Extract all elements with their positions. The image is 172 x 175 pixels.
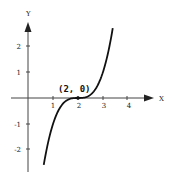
y-tick-label: 2 — [17, 43, 21, 51]
y-axis-arrow-icon — [25, 22, 32, 32]
x-tick-label: 3 — [102, 102, 106, 110]
x-axis-arrow-icon — [144, 95, 154, 102]
point-annotation: (2, 0) — [58, 84, 91, 94]
y-tick-label: 1 — [17, 69, 21, 77]
chart: Y X 1 2 3 4 2 1 -1 -2 (2, 0) — [0, 0, 172, 175]
x-axis-label: X — [159, 95, 164, 103]
inflection-point — [76, 96, 80, 100]
y-tick-label: -1 — [14, 121, 21, 129]
x-tick-label: 4 — [127, 102, 132, 110]
x-tick-label: 1 — [51, 102, 55, 110]
y-axis-label: Y — [25, 10, 31, 18]
y-tick-label: -2 — [14, 146, 21, 154]
x-tick-label: 2 — [77, 102, 81, 110]
